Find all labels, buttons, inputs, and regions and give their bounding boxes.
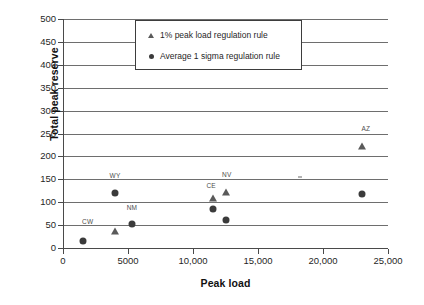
triangle-marker-icon [145,33,157,38]
data-point-s1-2 [128,221,135,228]
data-point-s1-5 [359,191,366,198]
x-tick-label-15000: 15,000 [243,256,272,266]
x-tick-10000 [193,249,194,254]
x-tick-label-5000: 5000 [117,256,138,266]
legend-entry-0: 1% peak load regulation rule [145,30,268,40]
circle-marker-icon [145,54,157,59]
data-point-s0-0 [111,227,119,234]
legend-label-1: Average 1 sigma regulation rule [160,51,280,61]
data-point-s1-0 [79,237,86,244]
y-tick-label-100: 100 [10,197,56,207]
x-tick-25000 [388,249,389,254]
point-label-wy: WY [110,172,121,179]
gridline-0 [63,248,388,249]
data-point-s0-2 [222,189,230,196]
legend-entry-1: Average 1 sigma regulation rule [145,51,280,61]
y-tick-label-50: 50 [10,220,56,230]
scan-artifact-speck [298,176,302,178]
point-label-az: AZ [362,125,371,132]
data-point-s1-3 [209,206,216,213]
x-tick-label-25000: 25,000 [373,256,402,266]
y-axis-title: Total peak reserve [48,34,60,154]
chart-legend: 1% peak load regulation rule Average 1 s… [135,20,302,70]
x-tick-0 [63,249,64,254]
x-tick-5000 [128,249,129,254]
data-point-s1-4 [222,216,229,223]
point-label-ce: CE [206,182,215,189]
data-point-s0-3 [358,143,366,150]
point-label-cw: CW [82,218,93,225]
chart-figure: 050100150200250300350400450500 0500010,0… [0,0,424,305]
x-tick-label-20000: 20,000 [308,256,337,266]
data-point-s1-1 [112,189,119,196]
x-axis-title: Peak load [63,277,388,289]
y-tick-label-0: 0 [10,243,56,253]
x-tick-label-10000: 10,000 [178,256,207,266]
y-tick-label-150: 150 [10,174,56,184]
data-point-s0-1 [209,194,217,201]
legend-label-0: 1% peak load regulation rule [160,30,268,40]
y-tick-label-500: 500 [10,14,56,24]
point-label-nm: NM [127,204,138,211]
point-label-nv: NV [222,171,231,178]
x-tick-label-0: 0 [60,256,65,266]
x-tick-20000 [323,249,324,254]
x-tick-15000 [258,249,259,254]
